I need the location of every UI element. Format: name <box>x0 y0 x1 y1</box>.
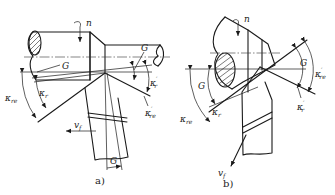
kappa-re-label-a: κre <box>4 93 18 104</box>
kappa-r-label-a: κr <box>38 88 49 99</box>
panel-b: n κre G κr G κ′re κ′r v <box>179 14 326 189</box>
g-label-a-upper: G <box>62 61 69 71</box>
kappa-r-label-b: κr <box>211 107 222 118</box>
kappa-re-label-b: κre <box>179 114 193 125</box>
kappa-r-prime-label-a: κ′r <box>149 75 158 89</box>
kappa-r-prime-label-b: κ′r <box>296 99 305 113</box>
tool-a <box>38 73 150 170</box>
feed-velocity-b: vf <box>218 135 246 180</box>
g-label-b-right: G <box>300 58 307 68</box>
feed-velocity-label-a: vf <box>74 120 83 132</box>
g-labels-a: G G G <box>37 43 148 168</box>
panel-a: n G G G κre κr <box>4 18 170 186</box>
g-label-b-left: G <box>198 81 205 91</box>
caption-a: a) <box>95 175 105 186</box>
rotation-indicator-a: n <box>74 18 92 42</box>
kappa-re-prime-label-a: κ′re <box>144 105 156 119</box>
g-label-a-bottom: G <box>110 156 117 166</box>
workpiece-b <box>210 17 280 95</box>
diagram-svg: n G G G κre κr <box>0 0 335 195</box>
g-label-a-right: G <box>141 43 148 53</box>
rotation-label-b: n <box>244 14 250 24</box>
angles-right-a: κ′r κ′re <box>133 65 158 119</box>
angles-left-b: κre G κr <box>179 70 222 125</box>
kappa-re-prime-label-b: κ′re <box>314 66 326 80</box>
angles-right-b: G κ′re κ′r <box>296 42 326 113</box>
caption-b: b) <box>223 178 233 189</box>
diagram-canvas: n G G G κre κr <box>0 0 335 195</box>
rotation-label-a: n <box>86 18 92 28</box>
feed-velocity-a: vf <box>66 120 96 132</box>
